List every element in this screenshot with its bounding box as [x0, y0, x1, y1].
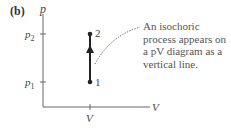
arrow-icon — [86, 45, 94, 53]
point-1-label: 1 — [95, 76, 101, 88]
annotation-leader — [95, 27, 140, 64]
y-tick-p1: p1 — [24, 76, 35, 91]
annotation-text: An isochoric process appears on a pV dia… — [143, 20, 231, 70]
y-tick-p2: p2 — [24, 28, 35, 43]
point-1 — [88, 80, 93, 85]
x-axis-label: V — [152, 101, 160, 113]
y-axis-label: p — [39, 2, 46, 16]
point-2 — [88, 32, 93, 37]
point-2-label: 2 — [95, 27, 101, 39]
x-tick-V: V — [86, 112, 94, 124]
